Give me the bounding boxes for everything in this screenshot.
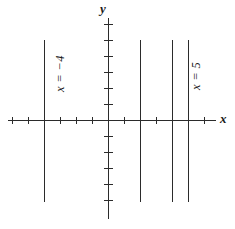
y-axis-label: y bbox=[100, 2, 106, 15]
line-label-x-5: x = 5 bbox=[190, 62, 203, 90]
coordinate-plane-svg bbox=[0, 0, 235, 229]
axes-group bbox=[8, 18, 216, 219]
x-axis-label: x bbox=[220, 112, 227, 125]
graph-figure: y x x = −4 x = 5 bbox=[0, 0, 235, 229]
line-label-x-minus-4: x = −4 bbox=[54, 55, 67, 92]
